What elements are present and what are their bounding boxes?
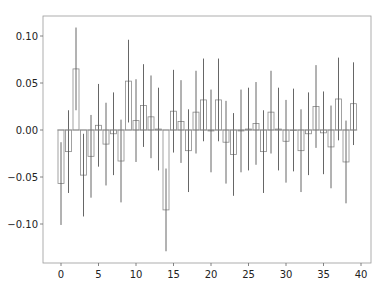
y-tick-label: −0.05 <box>7 172 38 183</box>
x-tick-label: 0 <box>58 269 64 280</box>
x-tick-label: 20 <box>205 269 218 280</box>
y-tick-label: 0.10 <box>16 31 38 42</box>
y-tick-label: 0.05 <box>16 78 38 89</box>
x-tick-label: 25 <box>242 269 255 280</box>
x-tick-label: 35 <box>317 269 330 280</box>
x-tick-label: 10 <box>130 269 143 280</box>
x-axis-ticks: 0510152025303540 <box>58 263 368 280</box>
x-tick-label: 40 <box>355 269 368 280</box>
x-tick-label: 30 <box>280 269 293 280</box>
y-tick-label: −0.10 <box>7 219 38 230</box>
bars <box>58 69 357 210</box>
bar-chart: 0510152025303540 0.100.050.00−0.05−0.10 <box>0 0 385 289</box>
y-tick-label: 0.00 <box>16 125 38 136</box>
x-tick-label: 15 <box>167 269 180 280</box>
y-axis-ticks: 0.100.050.00−0.05−0.10 <box>7 31 43 230</box>
x-tick-label: 5 <box>95 269 101 280</box>
